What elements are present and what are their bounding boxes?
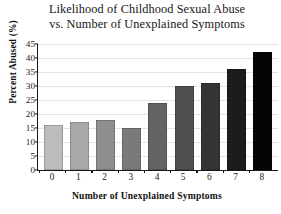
bar-series	[38, 44, 278, 170]
x-axis-tick-label: 6	[196, 172, 222, 188]
bar-slot	[197, 44, 223, 170]
x-axis-tick-label: 2	[91, 172, 117, 188]
bar	[175, 86, 194, 170]
bar	[122, 128, 141, 170]
x-axis-tick-label: 7	[223, 172, 249, 188]
bar	[70, 122, 89, 170]
x-axis-tick-label: 8	[249, 172, 275, 188]
y-axis-tick-label: 15	[26, 123, 35, 133]
y-axis-title: Percent Abused (%)	[8, 0, 18, 127]
y-axis-tick-label: 20	[26, 109, 35, 119]
bar-slot	[224, 44, 250, 170]
bar	[201, 83, 220, 170]
bar-slot	[119, 44, 145, 170]
chart-title-line-2: vs. Number of Unexplained Symptoms	[18, 17, 276, 32]
x-axis-tick-label: 1	[65, 172, 91, 188]
x-axis-title: Number of Unexplained Symptoms	[18, 190, 276, 201]
bar-chart-figure: Likelihood of Childhood Sexual Abuse vs.…	[0, 0, 281, 214]
bar	[44, 125, 63, 170]
bar-slot	[145, 44, 171, 170]
x-axis-tick-label: 0	[39, 172, 65, 188]
bar	[227, 69, 246, 170]
bar-slot	[171, 44, 197, 170]
x-axis-tick-label: 3	[118, 172, 144, 188]
bar	[96, 120, 115, 170]
bar-slot	[92, 44, 118, 170]
bar-slot	[40, 44, 66, 170]
y-axis-tick-label: 25	[26, 95, 35, 105]
chart-title: Likelihood of Childhood Sexual Abuse vs.…	[18, 2, 276, 31]
x-axis-tick-label: 5	[170, 172, 196, 188]
y-axis-tick-label: 35	[26, 67, 35, 77]
x-axis-tick-label: 4	[144, 172, 170, 188]
bar	[148, 103, 167, 170]
bar-slot	[66, 44, 92, 170]
y-axis-tick-label: 40	[26, 53, 35, 63]
y-axis-tick-label: 45	[26, 39, 35, 49]
bar-slot	[250, 44, 276, 170]
chart-title-line-1: Likelihood of Childhood Sexual Abuse	[18, 2, 276, 17]
bar	[253, 52, 272, 170]
y-axis-tick-label: 30	[26, 81, 35, 91]
y-axis-tick-label: 10	[26, 137, 35, 147]
plot-area: 051015202530354045	[37, 44, 278, 171]
x-axis-tick-labels: 012345678	[37, 172, 277, 188]
